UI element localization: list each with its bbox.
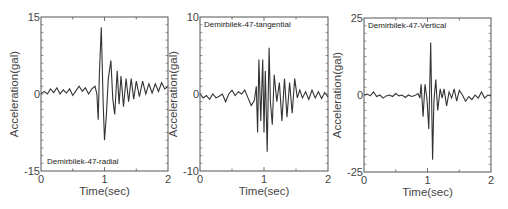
- x-tick-1: 1: [261, 173, 267, 185]
- radial-panel: 15 0 -15 0 1 2 Time(sec) Acceleration(ga…: [8, 11, 171, 197]
- x-tick-1: 1: [101, 173, 107, 185]
- vertical-panel: 25 0 -25 0 1 2 Time(sec) Acceleration(ga…: [331, 12, 494, 198]
- y-axis-title: Acceleration(gal): [331, 52, 343, 138]
- tick-marks: [200, 17, 328, 171]
- radial-trace: [41, 27, 168, 140]
- x-tick-2: 2: [488, 174, 494, 186]
- accelerogram-figure: 15 0 -15 0 1 2 Time(sec) Acceleration(ga…: [0, 0, 508, 209]
- panel-title: Demirbilek-47-radial: [47, 157, 119, 166]
- panel-title: Demirbilek-47-tangential: [204, 20, 291, 29]
- x-tick-0: 0: [197, 173, 203, 185]
- y-tick-zero: 0: [357, 89, 363, 101]
- x-tick-0: 0: [38, 173, 44, 185]
- x-tick-2: 2: [165, 173, 171, 185]
- x-tick-2: 2: [325, 173, 331, 185]
- y-tick-zero: 0: [193, 88, 199, 100]
- tick-marks: [364, 18, 491, 172]
- tangential-trace: [200, 48, 328, 152]
- x-tick-1: 1: [424, 174, 430, 186]
- y-tick-max: 25: [351, 12, 363, 24]
- x-axis-title: Time(sec): [239, 185, 290, 197]
- vertical-trace: [364, 43, 491, 160]
- x-axis-title: Time(sec): [79, 185, 130, 197]
- y-axis-title: Acceleration(gal): [167, 51, 179, 137]
- plot-frame: [200, 17, 328, 171]
- x-axis-title: Time(sec): [402, 186, 453, 198]
- tangential-panel: 10 0 -10 0 1 2 Time(sec) Acceleration(ga…: [167, 11, 331, 197]
- y-tick-max: 15: [28, 11, 40, 23]
- y-tick-zero: 0: [34, 88, 40, 100]
- panel-title: Demirbilek-47-Vertical: [368, 21, 446, 30]
- y-axis-title: Acceleration(gal): [8, 51, 20, 137]
- plot-frame: [364, 18, 491, 172]
- y-tick-max: 10: [187, 11, 199, 23]
- x-tick-0: 0: [361, 174, 367, 186]
